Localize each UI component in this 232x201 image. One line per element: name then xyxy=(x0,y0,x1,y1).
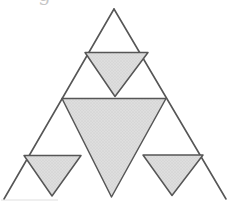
center-large-inverted-triangle xyxy=(62,99,166,198)
cropped-caption-glyph: g xyxy=(38,0,51,6)
bottom-right-inverted-triangle xyxy=(143,155,203,196)
top-small-inverted-triangle xyxy=(85,53,148,97)
bottom-left-inverted-triangle xyxy=(24,156,81,197)
triangle-figure: g xyxy=(0,0,232,201)
figure-canvas: g xyxy=(0,0,232,201)
